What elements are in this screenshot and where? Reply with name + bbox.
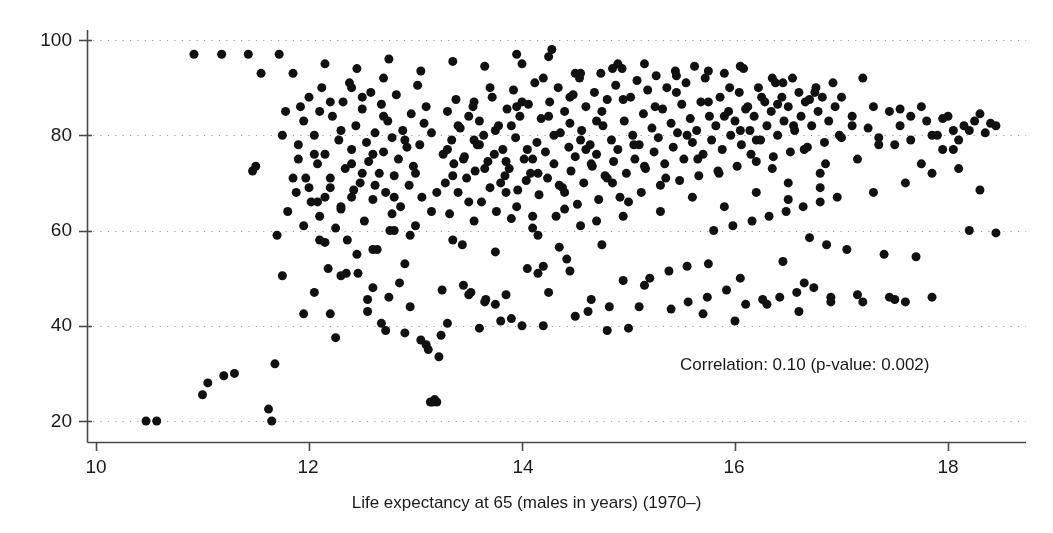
- x-tick-label-10: 10: [66, 456, 126, 478]
- y-tick-label-80: 80: [12, 124, 72, 146]
- x-tick-label-18: 18: [918, 456, 978, 478]
- x-tick-label-14: 14: [493, 456, 553, 478]
- y-tick-label-20: 20: [12, 410, 72, 432]
- scatter-plot-figure: 100 80 60 40 20 10 12 14 16 18 Correlati…: [0, 0, 1053, 533]
- y-tick-label-40: 40: [12, 314, 72, 336]
- x-tick-label-16: 16: [704, 456, 764, 478]
- x-axis-title: Life expectancy at 65 (males in years) (…: [0, 493, 1053, 513]
- y-tick-label-100: 100: [12, 29, 72, 51]
- scatter-plot-canvas: [0, 0, 1053, 533]
- y-tick-label-60: 60: [12, 219, 72, 241]
- correlation-annotation: Correlation: 0.10 (p-value: 0.002): [680, 355, 929, 375]
- x-tick-label-12: 12: [278, 456, 338, 478]
